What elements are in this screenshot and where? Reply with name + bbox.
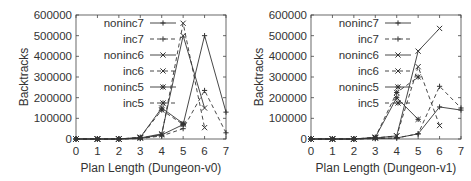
legend: noninc7inc7noninc6inc6noninc5inc5	[104, 17, 176, 109]
legend-label: inc5	[358, 97, 379, 109]
x-tick-label: 5	[180, 145, 186, 157]
y-tick-label: 400000	[34, 50, 72, 62]
chart-dungeon-v1: 0100000200000300000400000500000600000012…	[235, 0, 471, 181]
x-tick-label: 6	[201, 145, 207, 157]
x-tick-label: 1	[94, 145, 100, 157]
legend-marker-icon	[160, 100, 165, 105]
noninc5-point	[416, 117, 421, 122]
inc5-point	[351, 136, 356, 141]
inc6-point	[437, 123, 442, 128]
x-tick-label: 7	[458, 145, 464, 157]
noninc7-point	[223, 110, 228, 115]
inc5-point	[73, 136, 78, 141]
series-inc7	[73, 88, 228, 142]
y-tick-label: 300000	[34, 71, 72, 83]
y-axis-label: Backtracks	[17, 48, 31, 107]
legend: noninc7inc7noninc6inc6noninc5inc5	[339, 17, 411, 109]
legend-label: noninc5	[104, 81, 144, 93]
chart-dungeon-v0: 0100000200000300000400000500000600000012…	[0, 0, 236, 181]
x-axis-label: Plan Length (Dungeon-v1)	[316, 161, 457, 175]
x-tick-label: 0	[73, 145, 79, 157]
x-axis-label: Plan Length (Dungeon-v0)	[81, 161, 222, 175]
series-inc5	[73, 107, 185, 141]
legend-label: inc6	[358, 65, 379, 77]
legend-label: inc7	[123, 33, 144, 45]
legend-label: inc6	[123, 65, 144, 77]
legend-label: noninc5	[339, 81, 379, 93]
y-tick-label: 400000	[269, 50, 307, 62]
inc7-point	[223, 130, 228, 135]
legend-marker-icon	[160, 36, 165, 41]
x-tick-label: 3	[372, 145, 378, 157]
inc5-point	[181, 122, 186, 127]
noninc6-point	[437, 26, 442, 31]
x-tick-label: 4	[394, 145, 401, 157]
y-tick-label: 500000	[269, 30, 307, 42]
legend-marker-icon	[395, 84, 400, 89]
x-tick-label: 3	[137, 145, 143, 157]
chart-svg-dungeon-v1: 0100000200000300000400000500000600000012…	[235, 0, 471, 181]
x-tick-label: 2	[351, 145, 357, 157]
series-inc7	[308, 84, 463, 142]
y-tick-label: 200000	[34, 92, 72, 104]
plot-frame	[76, 15, 226, 139]
legend-marker-icon	[160, 20, 165, 25]
chart-svg-dungeon-v0: 0100000200000300000400000500000600000012…	[0, 0, 236, 181]
legend-marker-icon	[160, 84, 165, 89]
inc5-point	[416, 74, 421, 79]
legend-marker-icon	[395, 100, 400, 105]
y-tick-label: 600000	[34, 9, 72, 21]
y-axis-label: Backtracks	[252, 48, 266, 107]
inc5-point	[138, 135, 143, 140]
series-noninc5	[73, 105, 185, 141]
inc5-point	[394, 90, 399, 95]
inc5-point	[95, 136, 100, 141]
y-tick-label: 500000	[34, 30, 72, 42]
legend-marker-icon	[395, 20, 400, 25]
x-tick-label: 5	[415, 145, 421, 157]
inc7-point	[202, 88, 207, 93]
noninc6-point	[202, 105, 207, 110]
inc5-point	[116, 136, 121, 141]
plot-frame	[311, 15, 461, 139]
legend-label: noninc7	[104, 17, 144, 29]
x-tick-label: 0	[308, 145, 314, 157]
inc5-point	[159, 107, 164, 112]
legend-label: inc5	[123, 97, 144, 109]
y-tick-label: 600000	[269, 9, 307, 21]
x-tick-label: 2	[116, 145, 122, 157]
y-tick-label: 100000	[269, 112, 307, 124]
noninc7-point	[202, 33, 207, 38]
legend-label: inc7	[358, 33, 379, 45]
inc5-point	[308, 136, 313, 141]
inc5-point	[330, 136, 335, 141]
legend-label: noninc7	[339, 17, 379, 29]
inc5-point	[373, 135, 378, 140]
inc6-point	[416, 64, 421, 69]
y-tick-label: 100000	[34, 112, 72, 124]
y-tick-label: 0	[301, 133, 307, 145]
x-tick-label: 7	[223, 145, 229, 157]
legend-label: noninc6	[339, 49, 379, 61]
legend-label: noninc6	[104, 49, 144, 61]
y-tick-label: 0	[66, 133, 72, 145]
noninc5-point	[394, 95, 399, 100]
legend-marker-icon	[395, 36, 400, 41]
series-noninc7	[308, 104, 463, 141]
y-tick-label: 300000	[269, 71, 307, 83]
x-tick-label: 4	[159, 145, 166, 157]
x-tick-label: 6	[436, 145, 442, 157]
y-tick-label: 200000	[269, 92, 307, 104]
x-tick-label: 1	[329, 145, 335, 157]
